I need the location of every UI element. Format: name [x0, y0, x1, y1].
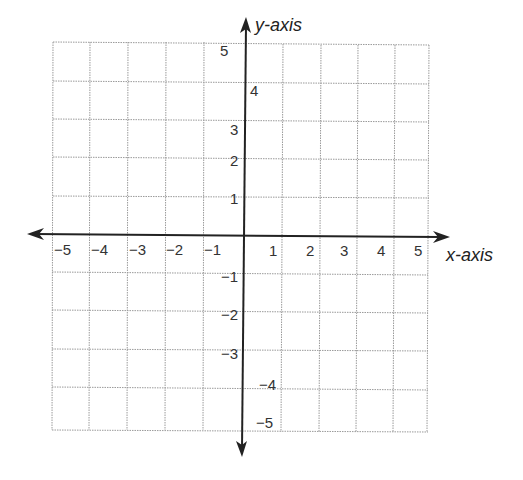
y-tick-label: 2: [230, 153, 238, 168]
y-tick-label: 5: [220, 43, 228, 58]
y-tick-label: −2: [221, 307, 238, 322]
x-tick-label: −4: [91, 242, 108, 257]
x-tick-label: −1: [204, 242, 221, 257]
y-tick-label: 4: [250, 83, 258, 98]
x-tick-label: 3: [340, 243, 348, 258]
y-tick-label: −3: [221, 346, 238, 361]
y-tick-label: −4: [259, 377, 276, 392]
coordinate-plane: [0, 0, 523, 480]
x-tick-label: −5: [54, 242, 71, 257]
x-tick-label: 5: [414, 243, 422, 258]
x-tick-label: −3: [129, 242, 146, 257]
x-tick-label: 2: [306, 243, 314, 258]
x-tick-label: 4: [377, 243, 385, 258]
y-tick-label: 1: [230, 191, 238, 206]
y-tick-label: −5: [256, 415, 273, 430]
y-tick-label: 3: [230, 122, 238, 137]
y-tick-label: −1: [221, 269, 238, 284]
x-tick-label: 1: [269, 243, 277, 258]
y-axis-title: y-axis: [255, 16, 302, 34]
x-tick-label: −2: [166, 242, 183, 257]
x-axis-title: x-axis: [446, 246, 493, 264]
